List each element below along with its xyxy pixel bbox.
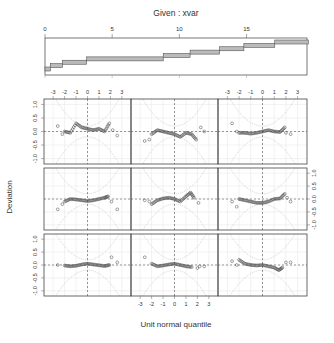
given-interval-bar: [62, 60, 86, 64]
y-tick-label: 0.0: [32, 128, 38, 136]
y-tick-label: 1.0: [311, 169, 317, 177]
panel-grid: -3-2-10123-3-2-10123-3-2-10123-1.0-0.50.…: [32, 75, 317, 319]
y-axis-label: Deviation: [5, 180, 14, 213]
data-point: [289, 133, 292, 136]
y-tick-label: 0.0: [311, 195, 317, 203]
x-tick-label: -3: [138, 301, 143, 307]
data-point: [143, 140, 146, 143]
data-point: [61, 133, 64, 136]
y-tick-label: -0.5: [32, 140, 38, 149]
y-tick-label: 0.5: [32, 248, 38, 256]
x-tick-label: -2: [62, 89, 67, 95]
x-tick-label: 3: [120, 89, 123, 95]
data-point: [143, 256, 146, 259]
given-interval-bar: [163, 54, 190, 58]
given-tick-label: 5: [111, 26, 115, 32]
data-point: [143, 199, 146, 202]
given-tick-label: 10: [176, 26, 183, 32]
x-tick-label: 3: [207, 301, 210, 307]
x-axis-label: Unit normal quantile: [140, 320, 212, 329]
given-interval-bar: [50, 64, 62, 68]
y-tick-label: -0.5: [311, 207, 317, 216]
x-tick-label: 0: [173, 301, 176, 307]
data-point: [199, 126, 202, 129]
data-point: [289, 200, 292, 203]
data-point: [116, 134, 119, 137]
y-tick-label: -1.0: [32, 286, 38, 295]
x-tick-label: 0: [261, 89, 264, 95]
y-tick-label: 1.0: [32, 235, 38, 243]
y-tick-label: -1.0: [32, 154, 38, 163]
data-point: [61, 203, 64, 206]
x-tick-label: -3: [51, 89, 56, 95]
given-interval-bar: [220, 47, 244, 51]
x-tick-label: -2: [237, 89, 242, 95]
data-point: [235, 205, 238, 208]
data-point: [111, 129, 114, 132]
given-interval-bar: [45, 67, 50, 71]
x-tick-label: 1: [273, 89, 276, 95]
x-tick-label: 3: [296, 89, 299, 95]
x-tick-label: 1: [184, 301, 187, 307]
y-tick-label: -1.0: [311, 220, 317, 229]
x-tick-label: -1: [248, 89, 253, 95]
y-tick-label: 0.0: [32, 261, 38, 269]
data-point: [56, 125, 59, 128]
given-panel: 051015: [43, 26, 308, 78]
given-interval-bar: [244, 43, 275, 47]
x-tick-label: 2: [284, 89, 287, 95]
data-point: [289, 261, 292, 264]
x-tick-label: 2: [196, 301, 199, 307]
data-point: [56, 208, 59, 211]
data-point: [203, 265, 206, 268]
data-point: [231, 200, 234, 203]
x-tick-label: 0: [86, 89, 89, 95]
given-tick-label: 0: [43, 26, 47, 32]
data-point: [231, 122, 234, 125]
given-tick-label: 15: [243, 26, 250, 32]
data-point: [231, 260, 234, 263]
x-tick-label: -1: [161, 301, 166, 307]
coplot-chart: Given : xvar 051015 -3-2-10123-3-2-10123…: [0, 0, 334, 343]
x-tick-label: -1: [74, 89, 79, 95]
y-tick-label: 0.5: [311, 182, 317, 190]
given-interval-bar: [87, 57, 164, 61]
data-point: [148, 138, 151, 141]
x-tick-label: -2: [149, 301, 154, 307]
data-point: [116, 261, 119, 264]
data-point: [198, 265, 201, 268]
data-point: [148, 200, 151, 203]
y-tick-label: 1.0: [32, 101, 38, 109]
given-interval-bar: [275, 40, 309, 44]
x-tick-label: -3: [225, 89, 230, 95]
x-tick-label: 2: [109, 89, 112, 95]
y-tick-label: 0.5: [32, 114, 38, 122]
given-interval-bar: [190, 50, 220, 54]
data-point: [116, 208, 119, 211]
y-tick-label: -0.5: [32, 273, 38, 282]
x-tick-label: 1: [97, 89, 100, 95]
given-title: Given : xvar: [153, 8, 199, 18]
